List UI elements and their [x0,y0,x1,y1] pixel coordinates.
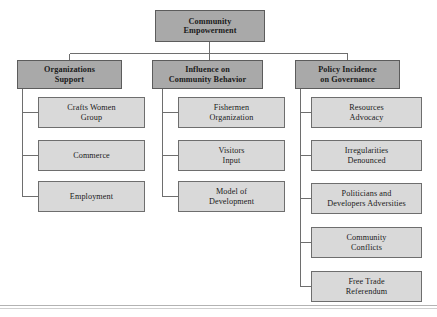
node-root-label: Community Empowerment [184,17,237,35]
node-leaf-label: Community Conflicts [346,233,386,251]
node-leaf-irregularities-denounced[interactable]: Irregularities Denounced [311,140,422,171]
node-leaf-visitors-input[interactable]: Visitors Input [178,140,285,171]
node-leaf-politicians-developers-adversities[interactable]: Politicians and Developers Adversities [311,183,422,214]
node-leaf-label: Model of Development [209,187,254,205]
node-leaf-model-of-development[interactable]: Model of Development [178,181,285,212]
node-branch-label: Policy Incidence on Governance [318,65,377,83]
node-leaf-label: Commerce [73,151,110,160]
node-leaf-free-trade-referendum[interactable]: Free Trade Referendum [311,271,422,302]
node-leaf-label: Resources Advocacy [349,103,384,121]
node-leaf-label: Fishermen Organization [210,103,254,121]
footer-divider-line [0,305,437,306]
node-branch-influence-community-behavior[interactable]: Influence on Community Behavior [152,60,263,89]
node-leaf-community-conflicts[interactable]: Community Conflicts [311,227,422,258]
org-chart-diagram: Community Empowerment Organizations Supp… [0,0,437,317]
node-leaf-label: Visitors Input [218,146,244,164]
node-leaf-label: Crafts Women Group [67,103,115,121]
node-leaf-commerce[interactable]: Commerce [38,140,145,171]
footer-divider-line-secondary [0,308,437,309]
node-leaf-resources-advocacy[interactable]: Resources Advocacy [311,97,422,128]
node-branch-policy-incidence-governance[interactable]: Policy Incidence on Governance [295,60,400,89]
node-leaf-label: Irregularities Denounced [345,146,389,164]
node-leaf-label: Employment [70,192,113,201]
node-leaf-fishermen-organization[interactable]: Fishermen Organization [178,97,285,128]
node-branch-label: Influence on Community Behavior [169,65,247,83]
node-branch-organizations-support[interactable]: Organizations Support [17,60,122,89]
node-leaf-employment[interactable]: Employment [38,181,145,212]
node-branch-label: Organizations Support [44,65,95,83]
node-leaf-crafts-women-group[interactable]: Crafts Women Group [38,97,145,128]
node-leaf-label: Politicians and Developers Adversities [327,189,405,207]
node-leaf-label: Free Trade Referendum [346,277,387,295]
node-root[interactable]: Community Empowerment [155,10,265,42]
